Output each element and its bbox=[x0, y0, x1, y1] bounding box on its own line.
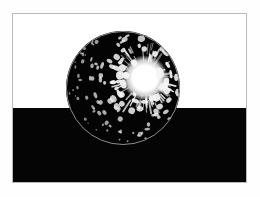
sphere-group bbox=[66, 31, 181, 145]
highlight-streak bbox=[161, 76, 168, 77]
highlight-streak bbox=[146, 94, 147, 104]
highlight-streak bbox=[143, 100, 144, 109]
highlight-streak bbox=[143, 51, 144, 60]
screenshot-canvas bbox=[0, 0, 260, 197]
highlight-streak bbox=[140, 103, 141, 107]
framed-image bbox=[12, 13, 247, 183]
sphere-illustration bbox=[13, 14, 246, 182]
highlight-streak bbox=[137, 102, 138, 106]
highlight-streak bbox=[142, 95, 143, 98]
